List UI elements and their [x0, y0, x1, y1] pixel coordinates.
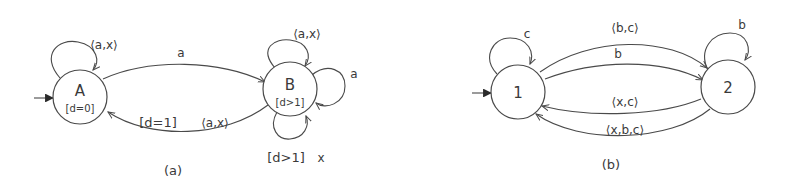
- caption-b: (b): [602, 157, 620, 172]
- state-A-guard: [d=0]: [66, 103, 95, 114]
- state-B-guard: [d>1]: [276, 97, 305, 108]
- state-2: 2: [701, 60, 755, 114]
- diagram-b: c b ⟨b,c⟩ b ⟨x,c⟩ ⟨x,b,c⟩ 1 2 (b): [472, 18, 755, 172]
- state-A-name: A: [75, 82, 86, 100]
- edge-label-1-1: c: [524, 27, 531, 41]
- edge-guard-B-A: [d=1]: [139, 115, 177, 130]
- edge-guard-B-B-bottom: [d>1]: [267, 150, 305, 165]
- edge-label-A-A: ⟨a,x⟩: [90, 38, 118, 52]
- edge-label-B-B-top: ⟨a,x⟩: [293, 27, 321, 41]
- edge-A-B: [103, 64, 265, 82]
- state-A: A [d=0]: [53, 70, 107, 124]
- edge-label-B-A: ⟨a,x⟩: [201, 116, 229, 130]
- diagram-canvas: ⟨a,x⟩ a [d=1] ⟨a,x⟩ ⟨a,x⟩ a [d>1] x A [d…: [0, 0, 785, 196]
- edge-1-2-upper: [540, 44, 707, 72]
- edge-label-2-2: b: [738, 18, 746, 32]
- diagram-a: ⟨a,x⟩ a [d=1] ⟨a,x⟩ ⟨a,x⟩ a [d>1] x A [d…: [34, 27, 358, 178]
- state-1-name: 1: [513, 84, 523, 102]
- edge-label-A-B: a: [177, 46, 184, 60]
- caption-a: (a): [164, 163, 182, 178]
- edge-B-A: [108, 105, 268, 131]
- edge-label-2-1-lower: ⟨x,b,c⟩: [606, 123, 644, 137]
- edge-label-1-2-upper: ⟨b,c⟩: [611, 21, 638, 35]
- edge-label-1-2-lower: b: [614, 47, 622, 61]
- state-B-name: B: [285, 76, 295, 94]
- edge-label-2-1-upper: ⟨x,c⟩: [612, 95, 639, 109]
- state-1: 1: [491, 65, 545, 119]
- edge-1-2-lower: [545, 64, 703, 80]
- state-B: B [d>1]: [263, 62, 317, 116]
- state-2-name: 2: [723, 79, 733, 97]
- edge-label-B-B-bottom: x: [317, 151, 324, 165]
- edge-label-B-B-right: a: [350, 67, 357, 81]
